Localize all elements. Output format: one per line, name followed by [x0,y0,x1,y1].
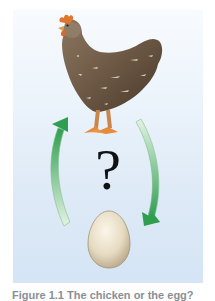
question-mark: ? [88,140,128,200]
egg-illustration [88,211,130,268]
cycle-arrow-down-icon [136,119,160,226]
figure-caption: Figure 1.1 The chicken or the egg? [12,289,212,301]
chicken-illustration [58,15,162,134]
cycle-arrow-up-icon [51,117,70,226]
